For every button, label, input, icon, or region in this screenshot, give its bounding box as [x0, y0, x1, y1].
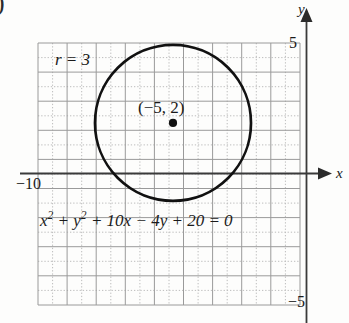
circle-equation: x2 + y2 + 10x − 4y + 20 = 0: [40, 212, 233, 229]
y-axis: [301, 8, 313, 323]
center-coordinate-label: (−5, 2): [138, 99, 184, 116]
equation-x-base: x: [40, 211, 48, 230]
x-tick-label-minus-ten: −10: [16, 176, 41, 192]
radius-annotation: r = 3: [55, 51, 90, 68]
equation-plus-1: +: [53, 211, 73, 230]
y-axis-label: y: [298, 2, 305, 17]
center-point-marker: [169, 119, 177, 127]
equation-y-base: y: [73, 211, 81, 230]
circle-graph-figure: ): [0, 0, 349, 323]
y-tick-label-five: 5: [289, 35, 297, 51]
equation-tail: + 10x − 4y + 20 = 0: [87, 211, 233, 230]
y-tick-label-minus-five: −5: [288, 294, 305, 310]
x-axis-label: x: [336, 166, 343, 181]
